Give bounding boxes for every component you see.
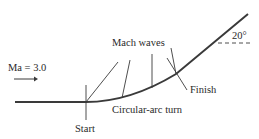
expansion-diagram: Ma = 3.0 Mach waves 20° Finish Circular-… <box>0 0 259 139</box>
start-label: Start <box>75 123 95 134</box>
mach-waves-label: Mach waves <box>112 37 165 48</box>
flow-arrow-icon <box>14 77 38 82</box>
arc-turn-label: Circular-arc turn <box>112 104 183 115</box>
angle-label: 20° <box>232 30 247 41</box>
mach-wave-1 <box>86 62 118 102</box>
finish-marker <box>167 58 187 90</box>
mach-wave-2 <box>122 60 130 98</box>
mach-wave-4 <box>171 48 176 74</box>
finish-label: Finish <box>190 84 217 95</box>
mach-label: Ma = 3.0 <box>8 62 46 73</box>
